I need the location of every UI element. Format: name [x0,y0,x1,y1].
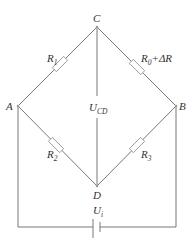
battery-icon [93,219,100,238]
label-r1: R1 [46,52,57,67]
bridge-circuit-diagram: C A B D R1 R0+ΔR R2 R3 UCD Ui [0,0,194,246]
label-node-b: B [179,100,186,112]
node-b [175,105,178,108]
label-r3: R3 [140,148,152,163]
wire-b-battery [100,106,176,227]
wire-a-battery [18,106,93,227]
label-ui: Ui [93,204,103,219]
label-r0-delta-r: R0+ΔR [140,52,172,67]
label-ucd: UCD [89,101,108,116]
label-node-d: D [92,189,101,201]
label-node-c: C [93,12,101,24]
node-d [96,185,99,188]
label-node-a: A [5,100,13,112]
label-r2: R2 [46,148,58,163]
node-a [17,105,20,108]
node-c [96,26,99,29]
